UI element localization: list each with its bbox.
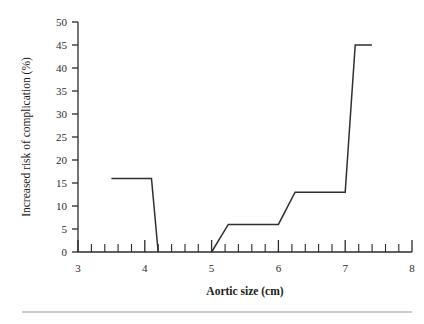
y-tick-label: 25 bbox=[56, 131, 68, 143]
x-tick-label: 7 bbox=[342, 262, 348, 274]
y-tick-label: 40 bbox=[56, 62, 68, 74]
x-axis-title: Aortic size (cm) bbox=[206, 285, 283, 298]
y-tick-label: 5 bbox=[62, 223, 68, 235]
y-tick-label: 15 bbox=[56, 177, 68, 189]
y-tick-label: 20 bbox=[56, 154, 68, 166]
y-tick-label: 50 bbox=[56, 16, 68, 28]
figure-container: 0 5 10 15 20 25 30 35 40 45 50 bbox=[0, 0, 424, 324]
y-tick-label: 10 bbox=[56, 200, 68, 212]
y-axis-title: Increased risk of complication (%) bbox=[20, 57, 33, 217]
x-tick-label: 8 bbox=[409, 262, 415, 274]
y-tick-label: 35 bbox=[56, 85, 68, 97]
y-tick-label: 0 bbox=[62, 246, 68, 258]
x-tick-label: 3 bbox=[75, 262, 81, 274]
y-tick-label: 30 bbox=[56, 108, 68, 120]
y-tick-label: 45 bbox=[56, 39, 68, 51]
x-tick-label: 6 bbox=[276, 262, 282, 274]
x-tick-label: 4 bbox=[142, 262, 148, 274]
x-tick-label: 5 bbox=[209, 262, 215, 274]
risk-vs-aortic-size-line-chart: 0 5 10 15 20 25 30 35 40 45 50 bbox=[0, 0, 424, 324]
